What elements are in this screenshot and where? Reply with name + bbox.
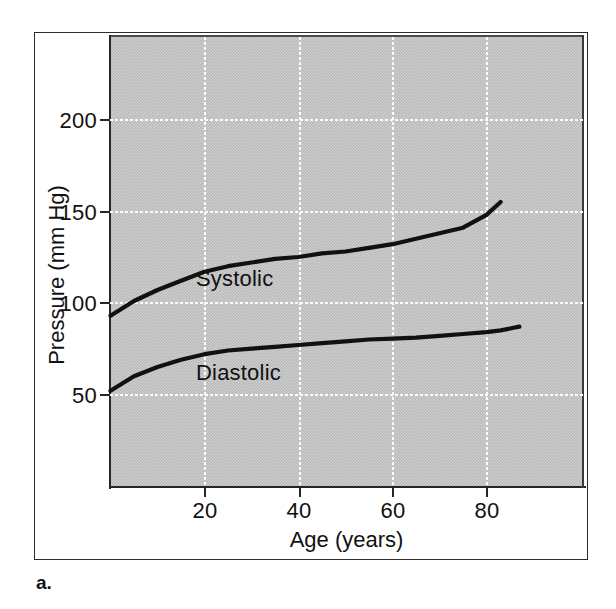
gridline-y-50	[110, 394, 583, 396]
tick-x-40	[299, 487, 301, 497]
tick-y-100	[100, 302, 109, 304]
tick-x-60	[392, 487, 394, 497]
figure-caption: a.	[36, 572, 52, 594]
plot-area	[110, 37, 583, 487]
plot-axis-bottom	[109, 486, 586, 488]
plot-border-top	[109, 35, 584, 37]
gridline-x-80	[486, 37, 488, 487]
tick-y-50	[100, 394, 109, 396]
xtick-label-80: 80	[457, 498, 517, 524]
tick-x-80	[486, 487, 488, 497]
plot-border-right	[582, 35, 584, 488]
blood-pressure-chart: 200 150 100 50 20 40 60 80 Pressure (mm …	[0, 0, 616, 609]
gridline-x-60	[392, 37, 394, 487]
gridline-x-20	[204, 37, 206, 487]
x-axis-title: Age (years)	[110, 527, 583, 553]
xtick-label-40: 40	[269, 498, 329, 524]
tick-x-20	[204, 487, 206, 497]
gridline-y-200	[110, 119, 583, 121]
gridline-y-100	[110, 302, 583, 304]
xtick-label-20: 20	[175, 498, 235, 524]
ytick-label-200: 200	[17, 108, 97, 134]
tick-y-200	[100, 119, 109, 121]
series-label-systolic: Systolic	[196, 266, 273, 292]
tick-y-150	[100, 211, 109, 213]
gridline-x-40	[299, 37, 301, 487]
plot-axis-left	[109, 35, 111, 489]
xtick-label-60: 60	[363, 498, 423, 524]
series-label-diastolic: Diastolic	[196, 360, 281, 386]
gridline-y-150	[110, 211, 583, 213]
y-axis-title: Pressure (mm Hg)	[44, 145, 70, 405]
